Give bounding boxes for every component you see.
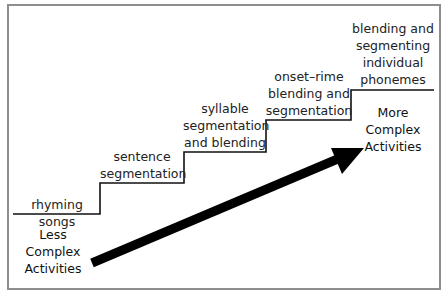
step-label-sentence-segmentation: sentence segmentation bbox=[100, 148, 184, 182]
step-label-syllable: syllable segmentation and blending bbox=[183, 100, 267, 151]
step-label-phonemes: blending and segmenting individual phone… bbox=[350, 20, 436, 88]
more-complex-caption: More Complex Activities bbox=[358, 104, 428, 155]
step-label-onset-rime: onset–rime blending and segmentation bbox=[265, 68, 353, 119]
step-label-rhyming-songs: rhyming songs bbox=[15, 196, 99, 230]
less-complex-caption: Less Complex Activities bbox=[18, 226, 88, 277]
